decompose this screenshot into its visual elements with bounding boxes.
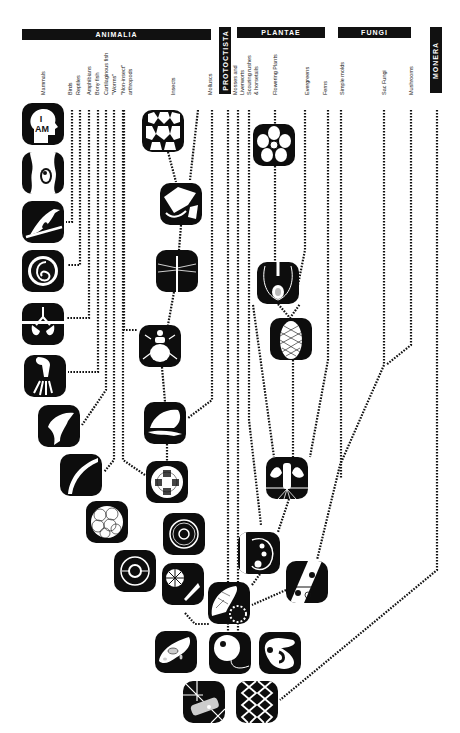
pine-cone-icon	[270, 318, 312, 360]
shark-eel-icon	[60, 454, 102, 496]
radial-protist-icon	[162, 563, 204, 605]
tile-human-i-am: I AM	[22, 103, 64, 145]
tile-limb-bones	[24, 355, 66, 397]
flagellate-cell-icon	[209, 632, 251, 674]
plant-cell-colony-icon	[208, 582, 250, 624]
tile-fungal-hypha	[286, 561, 328, 603]
lungs-icon	[22, 303, 64, 345]
tile-colony	[208, 582, 250, 624]
concentric-cell-icon	[163, 513, 205, 555]
tile-blastula	[86, 501, 128, 543]
flower-icon	[253, 124, 295, 166]
ciliate-icon	[155, 631, 197, 673]
human-head-icon: I AM	[22, 103, 64, 145]
tile-paramecium	[155, 631, 197, 673]
tile-dna	[236, 681, 278, 723]
limb-bones-icon	[24, 355, 66, 397]
fetus-in-womb-icon	[22, 152, 64, 194]
compound-eye-icon	[142, 110, 184, 152]
moss-cell-icon	[238, 532, 280, 574]
fish-icon	[38, 405, 80, 447]
tile-ring-cell	[114, 550, 156, 592]
tile-wing	[160, 183, 202, 225]
tile-target-cell	[163, 513, 205, 555]
tile-shell	[144, 402, 186, 444]
svg-text:AM: AM	[35, 124, 49, 134]
bacteria-crystal-icon	[183, 681, 225, 723]
tile-radial-cell	[162, 563, 204, 605]
insect-wing-icon	[160, 183, 202, 225]
embryo-cleavage-icon	[146, 461, 188, 503]
tile-cleavage	[146, 461, 188, 503]
tile-crystal	[183, 681, 225, 723]
tile-flower	[253, 124, 295, 166]
tile-dragonfly	[156, 250, 198, 292]
tile-sperm-cell	[209, 632, 251, 674]
seed-ovule-icon	[257, 262, 299, 304]
amoeba-icon	[259, 632, 301, 674]
tile-egg-embryo	[22, 250, 64, 292]
fungal-hypha-icon	[286, 561, 328, 603]
ring-cell-icon	[114, 550, 156, 592]
tile-bird	[22, 201, 64, 243]
svg-text:I: I	[40, 114, 43, 124]
dna-helix-icon	[236, 681, 278, 723]
tile-moss-cell	[238, 532, 280, 574]
beetle-icon	[139, 325, 181, 367]
tree-roots-icon	[266, 457, 308, 499]
tile-fish	[38, 405, 80, 447]
amniotic-egg-icon	[22, 250, 64, 292]
bird-icon	[22, 201, 64, 243]
tile-tree-roots	[266, 457, 308, 499]
tile-beetle	[139, 325, 181, 367]
tile-amoeba	[259, 632, 301, 674]
tile-ovule	[257, 262, 299, 304]
dragonfly-icon	[156, 250, 198, 292]
tile-fetus	[22, 152, 64, 194]
tile-cone	[270, 318, 312, 360]
cell-cluster-icon	[86, 501, 128, 543]
tile-honeycomb-eye	[142, 110, 184, 152]
tile-lungs	[22, 303, 64, 345]
tile-eel-shark	[60, 454, 102, 496]
mollusc-shell-icon	[144, 402, 186, 444]
